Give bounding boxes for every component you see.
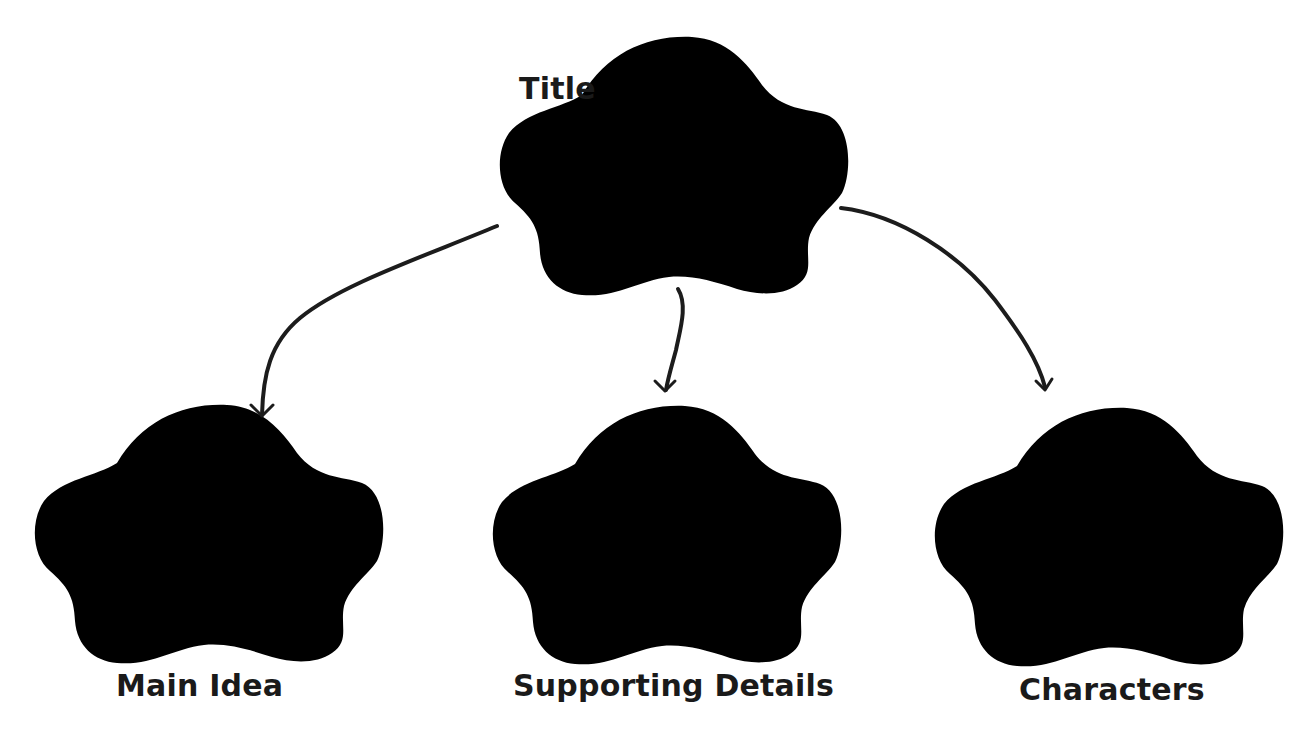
arrow-to-characters — [841, 208, 1052, 390]
main-idea-label: Main Idea — [116, 671, 283, 701]
arrow-to-supporting-details — [655, 289, 683, 391]
supporting-details-label: Supporting Details — [513, 671, 834, 701]
arrow-to-main-idea — [251, 226, 497, 416]
main-idea-shape[interactable] — [35, 405, 383, 664]
characters-label: Characters — [1019, 675, 1205, 705]
supporting-details-shape[interactable] — [493, 406, 841, 665]
diagram-canvas — [0, 0, 1298, 729]
title-label: Title — [519, 74, 596, 104]
characters-shape[interactable] — [935, 408, 1283, 667]
